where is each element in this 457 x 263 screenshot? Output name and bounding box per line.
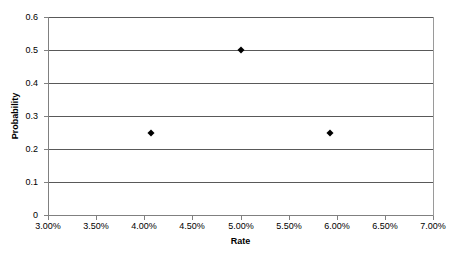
y-axis-tick xyxy=(44,50,48,51)
y-axis-tick xyxy=(44,83,48,84)
gridline xyxy=(48,116,433,117)
y-axis-line xyxy=(48,17,49,216)
x-axis-tick-label: 7.00% xyxy=(420,221,446,231)
y-axis-tick-label: 0.6 xyxy=(25,12,38,22)
gridline xyxy=(48,17,433,18)
right-axis-line xyxy=(433,17,434,216)
y-axis-tick xyxy=(44,149,48,150)
x-axis-tick-label: 6.00% xyxy=(324,221,350,231)
x-axis-tick-label: 4.50% xyxy=(179,221,205,231)
x-axis-tick xyxy=(144,216,145,220)
x-axis-tick xyxy=(289,216,290,220)
x-axis-tick-label: 5.50% xyxy=(276,221,302,231)
gridline xyxy=(48,83,433,84)
y-axis-tick-label: 0 xyxy=(33,210,38,220)
x-axis-tick xyxy=(48,216,49,220)
x-axis-tick-label: 4.00% xyxy=(131,221,157,231)
x-axis-tick-label: 3.00% xyxy=(35,221,61,231)
y-axis-tick xyxy=(44,182,48,183)
x-axis-tick xyxy=(192,216,193,220)
x-axis-tick xyxy=(96,216,97,220)
y-axis-tick-label: 0.2 xyxy=(25,144,38,154)
chart-screenshot: 00.10.20.30.40.50.6 3.00%3.50%4.00%4.50%… xyxy=(0,0,457,263)
x-axis-tick xyxy=(385,216,386,220)
gridline xyxy=(48,149,433,150)
x-axis-tick-label: 5.00% xyxy=(228,221,254,231)
x-axis-title: Rate xyxy=(48,236,433,247)
y-axis-tick-label: 0.1 xyxy=(25,177,38,187)
y-axis-tick-label: 0.4 xyxy=(25,78,38,88)
x-axis-tick-label: 3.50% xyxy=(83,221,109,231)
y-axis-tick-label: 0.3 xyxy=(25,111,38,121)
y-axis-tick xyxy=(44,17,48,18)
y-axis-title: Probability xyxy=(8,17,22,215)
x-axis-tick xyxy=(337,216,338,220)
gridline xyxy=(48,182,433,183)
y-axis-tick-label: 0.5 xyxy=(25,45,38,55)
x-axis-tick xyxy=(433,216,434,220)
x-axis-tick xyxy=(241,216,242,220)
x-axis-tick-label: 6.50% xyxy=(372,221,398,231)
y-axis-tick xyxy=(44,116,48,117)
